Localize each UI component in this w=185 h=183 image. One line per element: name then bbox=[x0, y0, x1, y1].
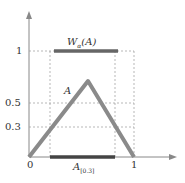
guide-lines bbox=[29, 51, 134, 157]
curve-label: A bbox=[64, 86, 71, 96]
top-bar-label: Wα(A) bbox=[67, 37, 96, 49]
bottom-bar-label-sub: [0.3] bbox=[80, 167, 94, 174]
y-tick-0-3: 0.3 bbox=[5, 122, 21, 132]
bottom-bar-label: A[0.3] bbox=[73, 162, 94, 174]
y-tick-1: 1 bbox=[16, 46, 22, 56]
top-bar-label-main: W bbox=[67, 36, 77, 47]
x-tick-0: 0 bbox=[27, 160, 33, 170]
y-tick-0-5: 0.5 bbox=[5, 98, 21, 108]
x-axis-arrow-icon bbox=[169, 154, 177, 160]
top-bar-label-tail: (A) bbox=[81, 36, 96, 47]
y-axis-arrow-icon bbox=[26, 11, 32, 19]
x-tick-1: 1 bbox=[131, 160, 137, 170]
membership-curve-A bbox=[29, 81, 134, 157]
axes bbox=[29, 15, 173, 157]
fuzzy-set-diagram bbox=[0, 0, 185, 183]
